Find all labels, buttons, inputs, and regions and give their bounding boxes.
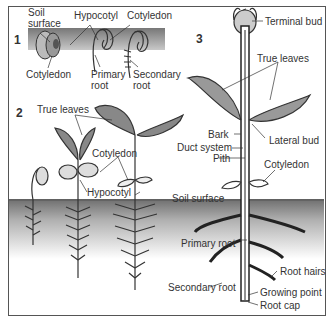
label-primary-root-p3: Primary root (181, 238, 235, 249)
label-soil-surface-p3: Soil surface (172, 193, 224, 204)
label-lateral-bud: Lateral bud (269, 135, 319, 146)
label-root-hairs: Root hairs (280, 266, 326, 277)
label-cotyledon-p1-bottom: Cotyledon (26, 69, 71, 80)
label-true-leaves-p3: True leaves (257, 53, 309, 64)
label-soil-surface-p1: Soil surface (28, 7, 61, 29)
label-cotyledon-p1-top: Cotyledon (127, 10, 172, 21)
panel-number-3: 3 (196, 32, 203, 46)
label-pith: Pith (213, 153, 230, 164)
label-cotyledon-p2: Cotyledon (92, 148, 137, 159)
label-growing-point: Growing point (260, 287, 322, 298)
label-bark: Bark (208, 129, 229, 140)
panel1-seed (36, 31, 60, 59)
label-true-leaves-p2: True leaves (37, 104, 89, 115)
label-primary-root-p1: Primary root (91, 69, 125, 91)
label-duct-system: Duct system (177, 142, 232, 153)
label-root-cap: Root cap (260, 300, 300, 311)
soil-main (9, 199, 324, 259)
label-hypocotyl-p1: Hypocotyl (74, 10, 118, 21)
panel-number-1: 1 (14, 33, 21, 47)
label-secondary-root-p3: Secondary root (168, 282, 236, 293)
panel-number-2: 2 (16, 106, 23, 120)
label-cotyledon-p3: Cotyledon (264, 159, 309, 170)
label-secondary-root-p1: Secondary root (133, 69, 181, 91)
label-hypocotyl-p2: Hypocotyl (87, 187, 131, 198)
label-terminal-bud: Terminal bud (265, 16, 322, 27)
